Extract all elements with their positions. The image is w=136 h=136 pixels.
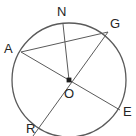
point-label-r: R (26, 122, 35, 135)
circle-geometry-figure: A N G E R O (0, 0, 136, 136)
point-label-n: N (57, 5, 66, 18)
center-point-marker (67, 78, 72, 83)
segment-diameter-G-R (33, 32, 108, 136)
point-label-e: E (123, 105, 132, 118)
point-label-o: O (64, 87, 74, 100)
segment-radius-N-O (63, 24, 69, 80)
point-label-a: A (4, 42, 13, 55)
point-label-g: G (110, 17, 120, 30)
